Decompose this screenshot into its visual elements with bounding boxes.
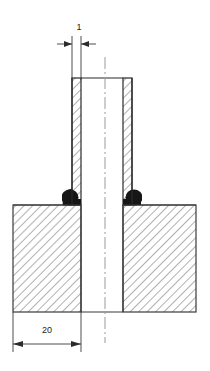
tube xyxy=(72,78,132,205)
dimension-bore-offset: 20 xyxy=(13,312,81,352)
base-block-right xyxy=(123,205,196,312)
dim20-arrow-right xyxy=(71,341,81,347)
base-block-left-body xyxy=(13,205,81,312)
dim20-label: 20 xyxy=(42,325,52,335)
dim1-arrow-right xyxy=(81,41,89,47)
base-block-right-body xyxy=(123,205,196,312)
dim1-label: 1 xyxy=(76,22,81,32)
technical-drawing-canvas: 1 20 xyxy=(0,0,210,371)
dimension-wall-thickness: 1 xyxy=(57,22,96,80)
tube-wall-left xyxy=(72,78,81,205)
dim1-arrow-left xyxy=(64,41,72,47)
base-block-left xyxy=(13,205,81,312)
dim20-arrow-left xyxy=(13,341,23,347)
tube-wall-right xyxy=(123,78,132,205)
cross-section-svg: 1 20 xyxy=(0,0,210,371)
